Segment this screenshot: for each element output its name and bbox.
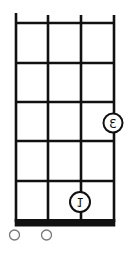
nut — [15, 219, 116, 227]
finger-label-1: 1 — [76, 195, 84, 209]
finger-label-3: 3 — [109, 117, 117, 131]
finger-marker-1: 1 — [70, 192, 90, 212]
fretboard-grid — [16, 13, 114, 222]
open-string-marker-1 — [10, 230, 20, 240]
finger-marker-3: 3 — [104, 114, 123, 133]
open-string-marker-2 — [42, 230, 52, 240]
ukulele-chord-diagram: 3 1 — [0, 0, 130, 259]
